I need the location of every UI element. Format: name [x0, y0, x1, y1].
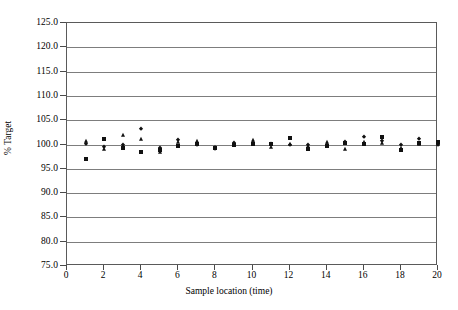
y-axis-tick-label: 95.0: [41, 163, 58, 173]
y-axis-tick-label: 115.0: [36, 66, 58, 76]
x-axis-tick-label: 2: [101, 270, 106, 280]
plot-area: [66, 22, 437, 265]
x-axis-title: Sample location (time): [0, 286, 458, 296]
gridline: [67, 169, 436, 170]
triangle-marker-icon: [121, 133, 125, 137]
diamond-marker-icon: [436, 143, 441, 148]
triangle-marker-icon: [362, 139, 366, 143]
gridline: [67, 242, 436, 243]
y-axis-tick-label: 80.0: [41, 236, 58, 246]
triangle-marker-icon: [139, 137, 143, 141]
x-axis-tick-label: 4: [138, 270, 143, 280]
x-axis-tick-label: 20: [432, 270, 442, 280]
y-axis-tick-label: 75.0: [41, 260, 58, 270]
y-axis-tick-label: 100.0: [36, 139, 58, 149]
x-axis-tick-label: 16: [358, 270, 368, 280]
square-marker-icon: [176, 144, 180, 148]
gridline: [67, 193, 436, 194]
y-axis-tick-label: 85.0: [41, 211, 58, 221]
y-axis-tick-label: 120.0: [36, 41, 58, 51]
y-axis-tick-labels: 75.080.085.090.095.0100.0105.0110.0115.0…: [0, 0, 66, 310]
x-axis-tick-label: 18: [395, 270, 405, 280]
diamond-marker-icon: [139, 127, 144, 132]
x-axis-tick-label: 8: [212, 270, 217, 280]
y-axis-tick-label: 110.0: [36, 90, 58, 100]
square-marker-icon: [288, 136, 292, 140]
square-marker-icon: [84, 157, 88, 161]
x-axis-tick-label: 10: [247, 270, 257, 280]
square-marker-icon: [139, 150, 143, 154]
y-axis-tick-label: 90.0: [41, 187, 58, 197]
x-axis-tick-label: 0: [64, 270, 69, 280]
chart-figure: % Target 75.080.085.090.095.0100.0105.01…: [0, 0, 458, 310]
x-axis-tick-label: 14: [321, 270, 331, 280]
gridline: [67, 96, 436, 97]
x-axis-tick-label: 6: [175, 270, 180, 280]
gridline: [67, 72, 436, 73]
triangle-marker-icon: [343, 147, 347, 151]
gridline: [67, 120, 436, 121]
gridline: [67, 217, 436, 218]
triangle-marker-icon: [417, 141, 421, 145]
y-axis-tick-label: 125.0: [36, 17, 58, 27]
square-marker-icon: [102, 137, 106, 141]
diamond-marker-icon: [194, 143, 199, 148]
y-axis-tick-label: 105.0: [36, 114, 58, 124]
gridline: [67, 47, 436, 48]
x-axis-tick-label: 12: [284, 270, 294, 280]
